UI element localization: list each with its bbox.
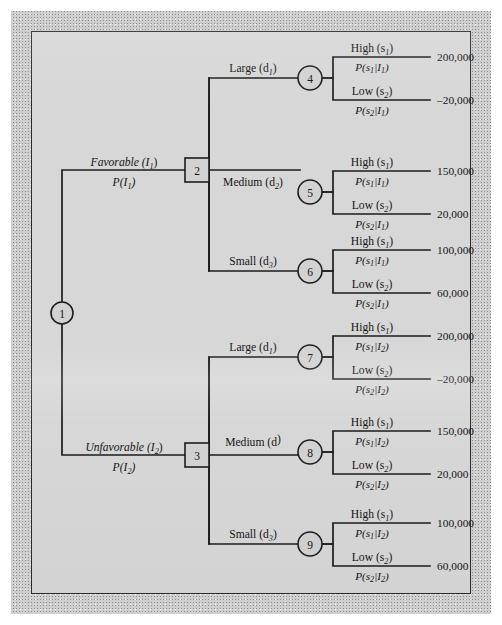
favorable-label-tail: ) — [154, 156, 158, 169]
branch-label-large-unfavorable: Large (d1) — [229, 341, 276, 356]
unfavorable-prob-text: P(I — [112, 461, 129, 474]
outcome-9-state-tail: ) — [388, 459, 392, 472]
svg-text:Large (d1): Large (d1) — [229, 62, 276, 77]
svg-text:P(s2|I1): P(s2|I1) — [354, 104, 389, 118]
svg-text:Favorable (I1): Favorable (I1) — [90, 156, 158, 171]
outcome-3: Low (s2) P(s2|I1) 20,000 — [352, 199, 469, 232]
svg-text:P(s2|I2): P(s2|I2) — [354, 478, 389, 492]
svg-text:High (s1): High (s1) — [351, 416, 394, 431]
outcome-4-cond-tail: ) — [384, 254, 389, 267]
small-unfav-text: Small (d — [229, 528, 269, 541]
outcome-11-state-tail: ) — [388, 551, 392, 564]
outcome-6-cond-tail: ) — [384, 340, 389, 353]
medium-unfav-tail: ) — [277, 433, 281, 446]
decision-branch-lines-favorable — [209, 78, 300, 271]
node-4[interactable]: 4 — [298, 66, 322, 90]
outcome-8-cond-tail: ) — [384, 435, 389, 448]
svg-text:Medium (d): Medium (d) — [225, 433, 281, 449]
outcome-7-state: Low (s — [352, 364, 385, 377]
svg-text:Medium (d2): Medium (d2) — [223, 176, 283, 191]
outcome-7-state-tail: ) — [388, 364, 392, 377]
outcome-11-cond-tail: ) — [384, 570, 389, 583]
outcome-3-state: Low (s — [352, 199, 385, 212]
outcome-8-state: High (s — [351, 416, 386, 429]
small-fav-text: Small (d — [229, 255, 269, 268]
medium-fav-text: Medium (d — [223, 176, 275, 189]
unfavorable-prob-tail: ) — [131, 461, 136, 474]
node-5[interactable]: 5 — [298, 180, 322, 204]
node-7-label: 7 — [307, 352, 313, 364]
node-5-label: 5 — [307, 187, 313, 199]
node-4-label: 4 — [307, 73, 313, 85]
large-unfav-tail: ) — [273, 341, 277, 354]
outcome-4-payoff: 100,000 — [437, 244, 474, 256]
outcome-5-state-tail: ) — [388, 278, 392, 291]
node-3[interactable]: 3 — [185, 443, 209, 467]
outcome-2-cond: P(s — [354, 175, 371, 188]
branch-label-small-unfavorable: Small (d3) — [229, 528, 277, 543]
outcome-4-state: High (s — [351, 235, 386, 248]
outcome-6-state: High (s — [351, 321, 386, 334]
branch-label-medium-unfavorable: Medium (d) — [225, 433, 281, 449]
outcome-11-cond: P(s — [354, 570, 371, 583]
outcome-5: Low (s2) P(s2|I1) 60,000 — [352, 278, 469, 311]
branch-label-unfavorable: Unfavorable (I2) P(I2) — [85, 441, 162, 476]
branch-label-large-favorable: Large (d1) — [229, 62, 276, 77]
svg-text:Low (s2): Low (s2) — [352, 85, 393, 100]
large-unfav-text: Large (d — [229, 341, 269, 354]
outcome-2-state-tail: ) — [389, 156, 393, 169]
node-6[interactable]: 6 — [298, 259, 322, 283]
svg-text:Large (d1): Large (d1) — [229, 341, 276, 356]
outcome-6-payoff: 200,000 — [437, 330, 474, 342]
large-fav-text: Large (d — [229, 62, 269, 75]
node-1[interactable]: 1 — [51, 302, 73, 324]
svg-text:High (s1): High (s1) — [351, 508, 394, 523]
outcome-0: High (s1) P(s1|I1) 200,000 — [351, 42, 475, 75]
svg-text:P(s1|I2): P(s1|I2) — [354, 527, 389, 541]
outcome-10-cond: P(s — [354, 527, 371, 540]
outcome-4-cond: P(s — [354, 254, 371, 267]
outcome-3-cond-tail: ) — [384, 218, 389, 231]
outcome-6-cond: P(s — [354, 340, 371, 353]
outcome-0-state-tail: ) — [389, 42, 393, 55]
outcome-9-cond-tail: ) — [384, 478, 389, 491]
outcome-1-cond-tail: ) — [384, 104, 389, 117]
branch-label-favorable: Favorable (I1) P(I1) — [90, 156, 158, 191]
favorable-prob-text: P(I — [112, 176, 129, 189]
svg-text:Low (s2): Low (s2) — [352, 199, 393, 214]
outcome-3-cond: P(s — [354, 218, 371, 231]
outcome-5-state: Low (s — [352, 278, 385, 291]
node-7[interactable]: 7 — [298, 345, 322, 369]
large-fav-tail: ) — [273, 62, 277, 75]
svg-text:P(s1|I1): P(s1|I1) — [354, 175, 389, 189]
figure-frame: 1 2 3 4 5 6 7 8 — [0, 0, 502, 625]
outcome-11: Low (s2) P(s2|I2) 60,000 — [352, 551, 469, 584]
svg-text:P(s1|I2): P(s1|I2) — [354, 340, 389, 354]
svg-text:P(s2|I1): P(s2|I1) — [354, 297, 389, 311]
outcome-0-state: High (s — [351, 42, 386, 55]
outcome-10-cond-tail: ) — [384, 527, 389, 540]
svg-text:P(I1): P(I1) — [112, 176, 136, 191]
outcome-1-payoff: –20,000 — [436, 94, 474, 106]
small-fav-tail: ) — [273, 255, 277, 268]
svg-text:High (s1): High (s1) — [351, 321, 394, 336]
svg-text:Small (d3): Small (d3) — [229, 255, 277, 270]
outcome-0-payoff: 200,000 — [437, 51, 474, 63]
outcome-1-cond: P(s — [354, 104, 371, 117]
outcome-10-state: High (s — [351, 508, 386, 521]
outcome-3-state-tail: ) — [388, 199, 392, 212]
decision-branch-lines-unfavorable — [209, 357, 300, 544]
outcome-2: High (s1) P(s1|I1) 150,000 — [351, 156, 475, 189]
outcome-7: Low (s2) P(s2|I2) –20,000 — [352, 364, 475, 397]
svg-text:Low (s2): Low (s2) — [352, 364, 393, 379]
outcome-8-cond: P(s — [354, 435, 371, 448]
outcome-10: High (s1) P(s1|I2) 100,000 — [351, 508, 475, 541]
node-8[interactable]: 8 — [298, 440, 322, 464]
outcome-2-cond-tail: ) — [384, 175, 389, 188]
outcome-3-payoff: 20,000 — [437, 208, 469, 220]
outcome-5-cond-tail: ) — [384, 297, 389, 310]
outcome-8-state-tail: ) — [389, 416, 393, 429]
node-2[interactable]: 2 — [185, 158, 209, 182]
outcome-7-cond-tail: ) — [384, 383, 389, 396]
node-9[interactable]: 9 — [298, 532, 322, 556]
